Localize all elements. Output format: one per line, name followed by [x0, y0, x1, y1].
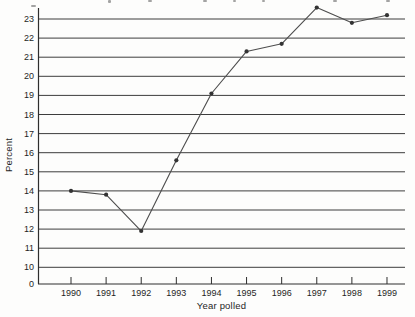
x-axis-title: Year polled: [38, 300, 405, 312]
data-point: [315, 5, 319, 9]
y-tick-label: 10: [24, 262, 34, 272]
line-chart: 2322212019181716151413121110019901991199…: [0, 0, 415, 317]
data-point: [244, 49, 248, 53]
data-point: [139, 229, 143, 233]
x-tick-label: 1992: [131, 288, 151, 298]
y-tick-label: 22: [24, 33, 34, 43]
data-point: [104, 193, 108, 197]
y-tick-label: 15: [24, 167, 34, 177]
data-point: [209, 91, 213, 95]
y-tick-label: 20: [24, 71, 34, 81]
y-tick-label: 11: [25, 243, 34, 253]
x-tick-label: 1993: [166, 288, 186, 298]
y-tick-label: 13: [24, 205, 34, 215]
y-axis-title: Percent: [3, 130, 15, 180]
x-tick-label: 1990: [61, 288, 81, 298]
x-tick-label: 1995: [237, 288, 257, 298]
x-tick-label: 1999: [377, 288, 397, 298]
data-line: [71, 8, 387, 231]
y-tick-label: 12: [24, 224, 34, 234]
y-tick-label: 0: [29, 279, 34, 289]
y-tick-label: 23: [24, 14, 34, 24]
y-tick-label: 17: [24, 129, 34, 139]
data-point: [350, 21, 354, 25]
data-point: [69, 189, 73, 193]
x-tick-label: 1996: [272, 288, 292, 298]
x-tick-label: 1998: [342, 288, 362, 298]
data-point: [280, 42, 284, 46]
x-tick-label: 1994: [201, 288, 221, 298]
y-tick-label: 19: [24, 90, 34, 100]
data-point: [174, 158, 178, 162]
y-tick-label: 16: [24, 148, 34, 158]
data-point: [385, 13, 389, 17]
x-tick-label: 1991: [96, 288, 116, 298]
x-tick-label: 1997: [307, 288, 327, 298]
y-tick-label: 21: [24, 52, 34, 62]
y-tick-label: 18: [24, 110, 34, 120]
y-tick-label: 14: [24, 186, 34, 196]
chart-figure: 2322212019181716151413121110019901991199…: [0, 0, 415, 317]
